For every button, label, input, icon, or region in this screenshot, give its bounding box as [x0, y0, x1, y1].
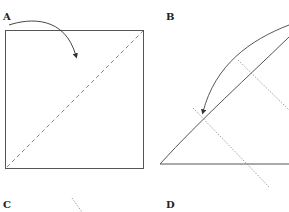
- dotted-fold-line-1: [193, 108, 270, 188]
- folding-diagram: [0, 0, 289, 212]
- panel-a: [6, 21, 144, 168]
- fold-arrow-icon: [9, 21, 76, 56]
- triangle-diagonal: [160, 37, 289, 164]
- dotted-fold-line-2: [238, 60, 289, 110]
- panel-b: [160, 25, 289, 188]
- panel-c-dotted-line: [72, 198, 82, 212]
- fold-arrow-icon: [203, 25, 289, 112]
